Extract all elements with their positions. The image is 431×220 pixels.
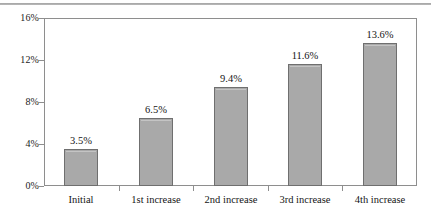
bar-top-highlight	[365, 45, 395, 46]
page-top-rule	[0, 3, 431, 5]
bar-top-highlight	[66, 151, 96, 152]
x-tick-mark	[268, 186, 269, 191]
y-tick-label: 8%	[3, 97, 39, 107]
bar	[288, 64, 322, 186]
bar-value-label: 11.6%	[275, 50, 335, 61]
bar-top-highlight	[141, 120, 171, 121]
bar-top-highlight	[290, 66, 320, 67]
y-tick-mark	[38, 18, 44, 19]
bar-value-label: 9.4%	[201, 73, 261, 84]
y-tick-mark	[38, 144, 44, 145]
x-tick-mark	[193, 186, 194, 191]
y-tick-label: 0%	[3, 181, 39, 191]
bar	[363, 43, 397, 186]
y-tick-label: 16%	[3, 13, 39, 23]
y-tick-label: 4%	[3, 139, 39, 149]
bar-top-highlight	[216, 89, 246, 90]
bar-value-label: 3.5%	[51, 135, 111, 146]
bar	[139, 118, 173, 186]
x-tick-mark	[342, 186, 343, 191]
x-tick-mark	[119, 186, 120, 191]
x-category-label: 4th increase	[335, 194, 425, 206]
bar-value-label: 13.6%	[350, 29, 410, 40]
bar	[64, 149, 98, 186]
bar-value-label: 6.5%	[126, 104, 186, 115]
y-tick-mark	[38, 102, 44, 103]
y-axis: 0%4%8%12%16%	[0, 0, 39, 220]
bar-chart-figure: 0%4%8%12%16% 3.5%Initial6.5%1st increase…	[0, 0, 431, 220]
y-tick-mark	[38, 60, 44, 61]
bar	[214, 87, 248, 186]
y-tick-mark	[38, 186, 44, 187]
y-tick-label: 12%	[3, 55, 39, 65]
